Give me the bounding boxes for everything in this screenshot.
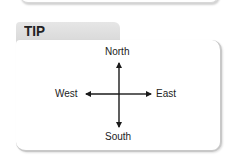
compass-north-label: North	[105, 46, 129, 57]
compass-west-label: West	[55, 88, 78, 99]
compass-south-label: South	[105, 131, 131, 142]
compass-east-label: East	[156, 88, 176, 99]
